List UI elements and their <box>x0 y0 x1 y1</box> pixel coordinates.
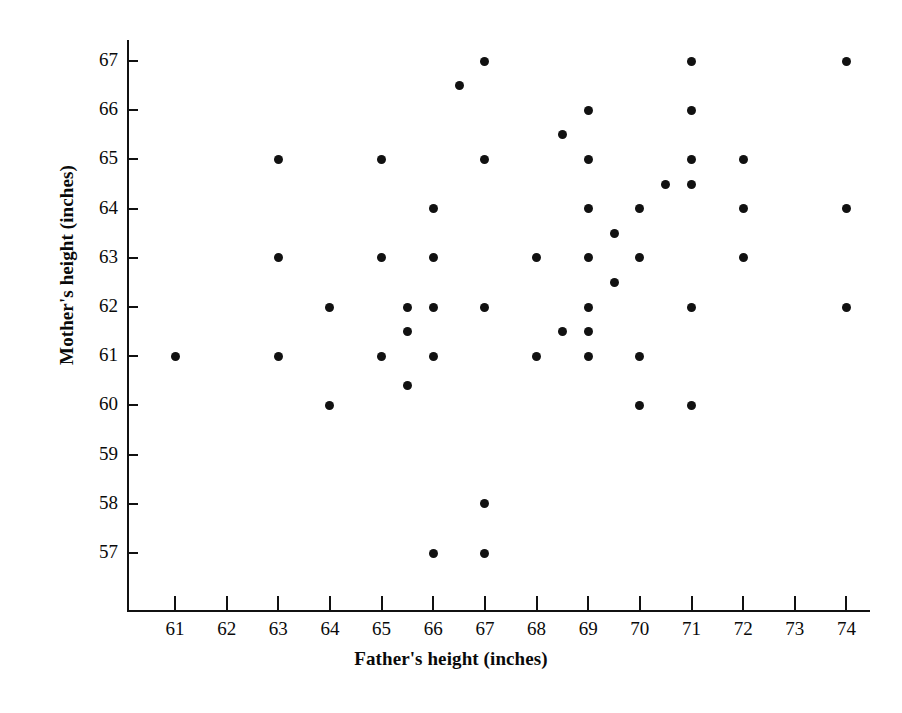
plot-area <box>0 0 902 713</box>
data-point <box>403 327 412 336</box>
data-point <box>635 352 644 361</box>
data-point <box>584 352 593 361</box>
data-point <box>661 180 670 189</box>
data-point <box>403 381 412 390</box>
data-point <box>429 253 438 262</box>
data-point <box>429 204 438 213</box>
data-point <box>610 278 619 287</box>
data-point <box>584 204 593 213</box>
data-point <box>842 303 851 312</box>
data-point <box>171 352 180 361</box>
data-point <box>403 303 412 312</box>
data-point <box>739 204 748 213</box>
data-point <box>455 81 464 90</box>
data-point <box>480 499 489 508</box>
data-point <box>584 327 593 336</box>
data-point <box>739 253 748 262</box>
data-point <box>842 204 851 213</box>
data-point <box>377 253 386 262</box>
data-point <box>610 229 619 238</box>
data-point <box>325 303 334 312</box>
data-point <box>274 253 283 262</box>
data-point <box>429 352 438 361</box>
data-point <box>687 401 696 410</box>
data-point <box>584 155 593 164</box>
data-point <box>377 352 386 361</box>
data-point <box>377 155 386 164</box>
data-point <box>687 180 696 189</box>
data-point <box>739 155 748 164</box>
data-point <box>429 303 438 312</box>
data-point <box>480 57 489 66</box>
data-point <box>480 155 489 164</box>
data-point <box>687 106 696 115</box>
data-point <box>584 303 593 312</box>
scatter-plot-figure: Mother's height (inches) Father's height… <box>0 0 902 713</box>
data-point <box>480 303 489 312</box>
data-point <box>532 352 541 361</box>
data-point <box>842 57 851 66</box>
data-point <box>558 327 567 336</box>
data-point <box>584 106 593 115</box>
data-point <box>480 549 489 558</box>
data-point <box>687 155 696 164</box>
data-point <box>558 130 567 139</box>
data-point <box>687 303 696 312</box>
data-point <box>635 253 644 262</box>
data-point <box>274 155 283 164</box>
data-point <box>584 253 593 262</box>
data-point <box>429 549 438 558</box>
data-point <box>532 253 541 262</box>
data-point <box>635 204 644 213</box>
data-point <box>635 401 644 410</box>
data-point <box>274 352 283 361</box>
data-point <box>687 57 696 66</box>
data-point <box>325 401 334 410</box>
